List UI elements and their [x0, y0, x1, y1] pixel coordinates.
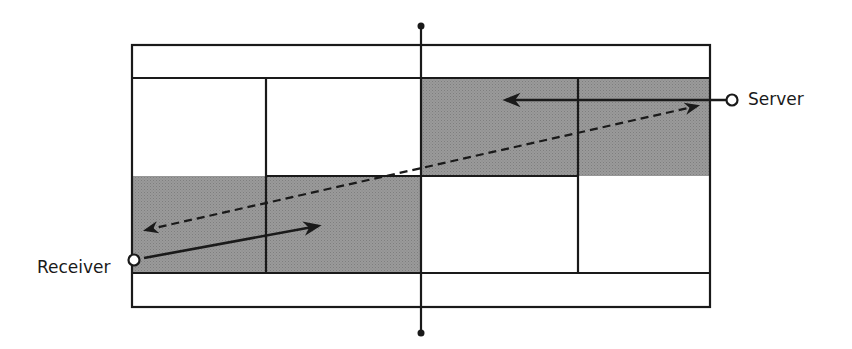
net-post-top: [418, 23, 425, 30]
receiver-position-icon: [129, 255, 140, 266]
shaded-server-service-box: [421, 78, 710, 176]
receiver-label: Receiver: [37, 257, 111, 277]
server-label: Server: [748, 89, 804, 109]
net-post-bottom: [418, 330, 425, 337]
tennis-court-diagram: [0, 0, 852, 349]
shaded-receiver-service-box: [133, 176, 421, 273]
server-position-icon: [727, 95, 738, 106]
